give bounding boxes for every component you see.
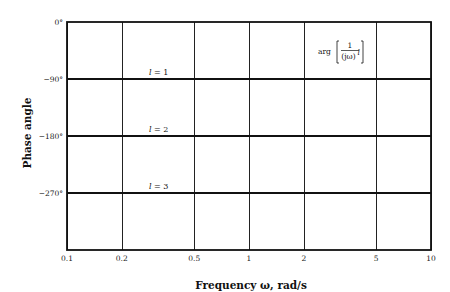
x-tick-label: 0.5: [188, 254, 200, 263]
x-tick-label: 0.1: [61, 254, 73, 263]
series-label: l = 3: [149, 182, 168, 191]
series-label: l = 1: [149, 68, 168, 77]
y-tick-label: −90°: [43, 75, 63, 84]
x-tick-label: 2: [301, 254, 306, 263]
x-tick-label: 10: [426, 254, 436, 263]
x-tick-label: 0.2: [116, 254, 128, 263]
annotation-arg: arg: [318, 47, 331, 56]
annotation-denominator: (jω): [341, 52, 355, 61]
y-axis-label: Phase angle: [21, 97, 33, 168]
annotation-numerator: 1: [348, 41, 353, 50]
series-label: l = 2: [149, 125, 168, 134]
right-bracket-icon: [361, 41, 363, 63]
left-bracket-icon: [337, 41, 339, 63]
x-tick-labels: 0.10.20.512510: [61, 254, 436, 263]
annotation-exponent: l: [358, 48, 361, 57]
y-tick-label: 0°: [54, 18, 63, 27]
x-tick-label: 5: [374, 254, 379, 263]
transfer-function-annotation: arg 1 (jω) l: [318, 41, 363, 63]
y-tick-label: −270°: [39, 189, 64, 198]
phase-angle-chart: 0°−90°−180°−270° 0.10.20.512510 l = 1l =…: [0, 0, 450, 292]
x-axis-label: Frequency ω, rad/s: [195, 279, 307, 291]
y-tick-label: −180°: [39, 132, 64, 141]
y-tick-labels: 0°−90°−180°−270°: [39, 18, 64, 198]
x-tick-label: 1: [247, 254, 252, 263]
series-labels: l = 1l = 2l = 3: [149, 68, 168, 191]
